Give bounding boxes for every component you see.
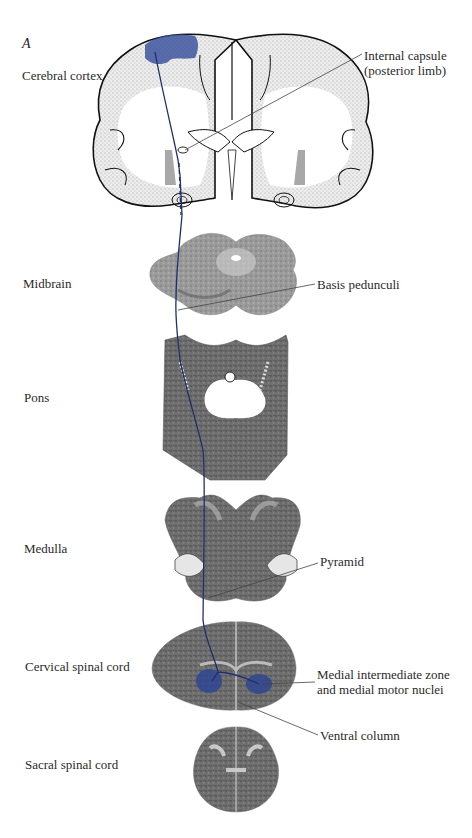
- medulla-section: [165, 495, 300, 601]
- callout-basis-pedunculi: Basis pedunculi: [317, 277, 400, 292]
- label-pons: Pons: [24, 390, 49, 405]
- callout-medial-intermediate-zone-line2: and medial motor nuclei: [317, 682, 450, 697]
- callout-pyramid: Pyramid: [320, 554, 364, 569]
- cerebral-cortex-section: [93, 34, 373, 207]
- callout-internal-capsule-line2: (posterior limb): [364, 63, 447, 78]
- callout-internal-capsule-line1: Internal capsule: [364, 48, 447, 63]
- cervical-spinal-cord-section: [152, 622, 296, 710]
- label-medulla: Medulla: [24, 541, 67, 556]
- callout-medial-intermediate-zone: Medial intermediate zone and medial moto…: [317, 667, 450, 697]
- midbrain-section: [150, 233, 297, 314]
- label-cervical-spinal-cord: Cervical spinal cord: [25, 659, 130, 674]
- panel-letter: A: [22, 36, 31, 52]
- pons-section: [163, 332, 288, 480]
- callout-internal-capsule: Internal capsule (posterior limb): [364, 48, 447, 78]
- label-sacral-spinal-cord: Sacral spinal cord: [25, 757, 118, 772]
- callout-medial-intermediate-zone-line1: Medial intermediate zone: [317, 667, 450, 682]
- figure-canvas: [0, 0, 472, 838]
- label-cerebral-cortex: Cerebral cortex: [22, 68, 102, 83]
- label-midbrain: Midbrain: [23, 276, 71, 291]
- callout-ventral-column: Ventral column: [320, 728, 400, 743]
- sacral-spinal-cord-section: [193, 727, 278, 812]
